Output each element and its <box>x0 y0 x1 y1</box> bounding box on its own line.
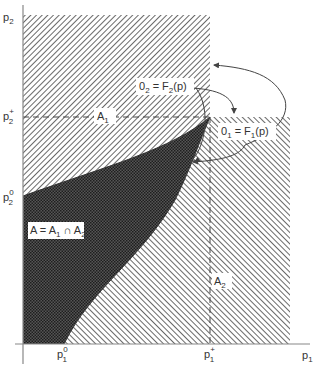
tick-p1-0: p01 <box>57 345 68 364</box>
y-axis-label: p2 <box>3 11 14 26</box>
tick-p2-0: p02 <box>3 188 14 207</box>
tick-p2-plus: p+2 <box>3 107 14 126</box>
feasible-set-diagram: p2 p1 p+2 p02 p01 p+1 A1 A2 A = A1 ∩ A2 … <box>0 0 323 377</box>
tick-p1-plus: p+1 <box>204 345 215 364</box>
x-axis-label: p1 <box>302 349 313 364</box>
